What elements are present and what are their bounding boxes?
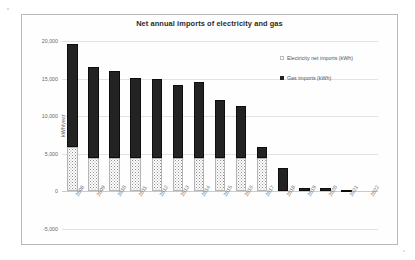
bar-segment-electricity[interactable] xyxy=(88,158,99,192)
bar-segment-gas[interactable] xyxy=(257,147,268,158)
bar-column[interactable] xyxy=(130,41,141,229)
bar-segment-electricity[interactable] xyxy=(236,158,247,192)
bar-column[interactable] xyxy=(109,41,120,229)
bar-segment-electricity[interactable] xyxy=(194,158,205,192)
bar-segment-gas[interactable] xyxy=(130,78,141,158)
bar-column[interactable] xyxy=(173,41,184,229)
y-tick-label: -5,000 xyxy=(43,226,58,232)
y-tick-label: 0 xyxy=(55,188,58,194)
bar-column[interactable] xyxy=(67,41,78,229)
bar-segment-electricity[interactable] xyxy=(215,158,226,192)
bar-column[interactable] xyxy=(236,41,247,229)
bar-segment-gas[interactable] xyxy=(194,82,205,158)
y-tick-label: 10,000 xyxy=(42,113,58,119)
bar-segment-gas[interactable] xyxy=(215,100,226,158)
bar-segment-gas[interactable] xyxy=(236,106,247,158)
y-tick-label: 20,000 xyxy=(42,38,58,44)
bar-segment-electricity[interactable] xyxy=(130,158,141,192)
bar-segment-gas[interactable] xyxy=(67,44,78,147)
legend-label: Electricity net imports (kWh) xyxy=(287,55,353,61)
gridline xyxy=(62,229,378,230)
page-speckle xyxy=(403,250,405,252)
bar-segment-electricity[interactable] xyxy=(152,158,163,192)
bar-column[interactable] xyxy=(88,41,99,229)
chart-legend: Electricity net imports (kWh)Gas imports… xyxy=(280,55,353,95)
bar-column[interactable] xyxy=(362,41,373,229)
bar-column[interactable] xyxy=(152,41,163,229)
page-speckle xyxy=(7,8,9,10)
legend-swatch-electricity-icon xyxy=(280,56,284,60)
legend-item[interactable]: Electricity net imports (kWh) xyxy=(280,55,353,61)
bar-column[interactable] xyxy=(194,41,205,229)
bar-segment-electricity[interactable] xyxy=(109,158,120,192)
legend-item[interactable]: Gas imports (kWh) xyxy=(280,75,353,81)
bar-segment-gas[interactable] xyxy=(152,79,163,158)
y-tick-label: 5,000 xyxy=(45,151,58,157)
bar-segment-gas[interactable] xyxy=(88,67,99,157)
chart-frame: Net annual imports of electricity and ga… xyxy=(21,14,398,245)
bar-segment-gas[interactable] xyxy=(109,71,120,157)
y-tick-label: 15,000 xyxy=(42,76,58,82)
bar-segment-gas[interactable] xyxy=(278,168,289,191)
legend-swatch-gas-icon xyxy=(280,76,284,80)
bar-segment-gas[interactable] xyxy=(173,85,184,158)
bar-column[interactable] xyxy=(215,41,226,229)
bar-column[interactable] xyxy=(257,41,268,229)
legend-label: Gas imports (kWh) xyxy=(287,75,331,81)
bar-segment-electricity[interactable] xyxy=(67,147,78,191)
bar-segment-electricity[interactable] xyxy=(257,158,268,192)
bar-segment-electricity[interactable] xyxy=(173,158,184,192)
chart-title: Net annual imports of electricity and ga… xyxy=(22,19,397,28)
